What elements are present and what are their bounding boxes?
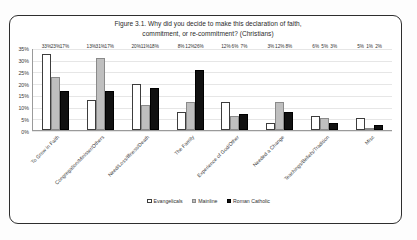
bar-value-label: 1%: [366, 44, 373, 49]
bar-group: 8%12%26%: [168, 49, 213, 130]
bar-wrapper: 7%: [239, 49, 248, 130]
bar[interactable]: 12%: [221, 102, 230, 130]
bar-groups: 33%23%17%13%31%17%20%11%18%8%12%26%12%6%…: [33, 49, 392, 130]
plot-inner: 0%5%10%15%20%25%30%35% 33%23%17%13%31%17…: [32, 49, 392, 131]
bar[interactable]: 8%: [177, 112, 186, 131]
legend-item[interactable]: Evangelicals: [147, 198, 183, 204]
bar-wrapper: 8%: [177, 49, 186, 130]
y-axis-tick-label: 15%: [18, 93, 29, 99]
bar[interactable]: 12%: [275, 102, 284, 130]
legend-item[interactable]: Mainline: [192, 198, 218, 204]
x-axis-label-cell: Misc: [348, 132, 393, 194]
bar[interactable]: 3%: [329, 123, 338, 130]
bar-value-label: 18%: [149, 44, 158, 49]
bar[interactable]: 33%: [42, 54, 51, 130]
bar-value-label: 3%: [330, 44, 337, 49]
bar-group: 12%6%7%: [213, 49, 258, 130]
bar-group: 33%23%17%: [33, 49, 78, 130]
y-axis-tick-label: 35%: [18, 46, 29, 52]
bar[interactable]: 26%: [195, 70, 204, 130]
x-axis-labels: To Grow in FaithCongregation/Minister/Ot…: [33, 132, 393, 194]
bar[interactable]: 6%: [311, 116, 320, 130]
bar[interactable]: 18%: [150, 88, 159, 130]
bar[interactable]: 17%: [105, 91, 114, 130]
bar-value-label: 12%: [221, 44, 230, 49]
bar-wrapper: 18%: [150, 49, 159, 130]
bar-value-label: 5%: [321, 44, 328, 49]
bar-wrapper: 17%: [105, 49, 114, 130]
y-axis-tick-label: 0%: [21, 129, 29, 135]
bar-group: 20%11%18%: [123, 49, 168, 130]
bar-value-label: 7%: [241, 44, 248, 49]
legend-label: Roman Catholic: [233, 198, 270, 204]
bar-wrapper: 11%: [141, 49, 150, 130]
bar-group: 3%12%8%: [257, 49, 302, 130]
bar-wrapper: 12%: [221, 49, 230, 130]
bar-value-label: 20%: [131, 44, 140, 49]
bar-value-label: 8%: [178, 44, 185, 49]
bar[interactable]: 20%: [132, 84, 141, 130]
bar-value-label: 31%: [96, 44, 105, 49]
chart-legend: EvangelicalsMainlineRoman Catholic: [0, 198, 417, 204]
bar-wrapper: 5%: [320, 49, 329, 130]
x-axis-label-cell: Teachings/Beliefs/Tradition: [303, 132, 348, 194]
bar-wrapper: 26%: [195, 49, 204, 130]
bar[interactable]: 5%: [320, 118, 329, 130]
bar[interactable]: 23%: [51, 77, 60, 130]
bar[interactable]: 7%: [239, 114, 248, 130]
bar-value-label: 2%: [375, 44, 382, 49]
bar-value-label: 17%: [60, 44, 69, 49]
bar-value-label: 12%: [275, 44, 284, 49]
bar[interactable]: 31%: [96, 58, 105, 130]
bar-wrapper: 5%: [356, 49, 365, 130]
y-axis-tick-label: 30%: [18, 58, 29, 64]
x-axis-tick-label: Misc: [363, 134, 375, 146]
bar-wrapper: 12%: [186, 49, 195, 130]
bar-wrapper: 3%: [266, 49, 275, 130]
legend-swatch-icon: [192, 199, 197, 204]
bar-wrapper: 13%: [87, 49, 96, 130]
bar-wrapper: 6%: [311, 49, 320, 130]
bar-value-label: 33%: [42, 44, 51, 49]
bar-wrapper: 17%: [60, 49, 69, 130]
bar-value-label: 13%: [87, 44, 96, 49]
bar[interactable]: 2%: [374, 125, 383, 130]
bar[interactable]: 8%: [284, 112, 293, 131]
bar[interactable]: 12%: [186, 102, 195, 130]
bar-wrapper: 20%: [132, 49, 141, 130]
x-axis-line: [32, 130, 392, 131]
bar-value-label: 11%: [141, 44, 150, 49]
bar-group: 13%31%17%: [78, 49, 123, 130]
bar[interactable]: 17%: [60, 91, 69, 130]
bar-wrapper: 8%: [284, 49, 293, 130]
bar[interactable]: 13%: [87, 100, 96, 130]
y-axis-tick-label: 25%: [18, 70, 29, 76]
legend-item[interactable]: Roman Catholic: [227, 198, 270, 204]
y-axis-tick-label: 20%: [18, 82, 29, 88]
bar[interactable]: 6%: [230, 116, 239, 130]
legend-swatch-icon: [227, 199, 232, 204]
bar-value-label: 8%: [285, 44, 292, 49]
bar[interactable]: 1%: [365, 128, 374, 130]
bar-value-label: 5%: [357, 44, 364, 49]
bar-value-label: 12%: [185, 44, 194, 49]
bar-value-label: 23%: [51, 44, 60, 49]
x-axis-tick-label: To Grow in Faith: [29, 134, 60, 165]
bar-value-label: 6%: [312, 44, 319, 49]
y-axis-tick-label: 10%: [18, 105, 29, 111]
legend-label: Evangelicals: [154, 198, 183, 204]
y-axis-tick-label: 5%: [21, 117, 29, 123]
bar-value-label: 26%: [194, 44, 203, 49]
bar[interactable]: 3%: [266, 123, 275, 130]
screenshot-root: Figure 3.1. Why did you decide to make t…: [0, 0, 417, 240]
bar-wrapper: 31%: [96, 49, 105, 130]
legend-swatch-icon: [147, 199, 152, 204]
chart-title: Figure 3.1. Why did you decide to make t…: [48, 19, 368, 38]
bar[interactable]: 5%: [356, 118, 365, 130]
bar-group: 5%1%2%: [347, 49, 392, 130]
plot-area: 0%5%10%15%20%25%30%35% 33%23%17%13%31%17…: [32, 49, 392, 131]
bar-group: 6%5%3%: [302, 49, 347, 130]
bar-wrapper: 1%: [365, 49, 374, 130]
bar[interactable]: 11%: [141, 105, 150, 130]
bar-value-label: 6%: [232, 44, 239, 49]
